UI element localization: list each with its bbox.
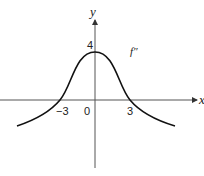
graph-canvas: y x 4 −3 0 3 f″ (0, 0, 204, 176)
x-tick-3: 3 (127, 105, 133, 117)
curve-label: f″ (130, 45, 138, 57)
y-tick-4: 4 (87, 39, 93, 51)
f-double-prime-curve (17, 52, 175, 126)
x-tick-0: 0 (84, 105, 90, 117)
x-axis-label: x (198, 92, 204, 107)
x-tick-neg3: −3 (56, 105, 69, 117)
y-axis-label: y (88, 4, 96, 19)
